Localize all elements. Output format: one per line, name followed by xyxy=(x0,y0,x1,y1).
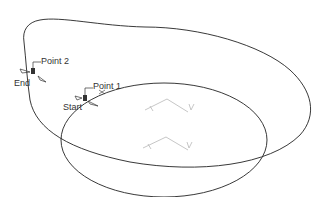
start-label: Start xyxy=(63,102,83,112)
lower-axis-triad xyxy=(143,137,192,150)
end-label: End xyxy=(14,78,30,88)
point2-label: Point 2 xyxy=(41,56,69,66)
upper-axis-triad xyxy=(145,99,194,112)
point1-label: Point 1 xyxy=(93,81,121,91)
cad-viewport: Point 2 End Point 1 Start xyxy=(0,0,320,197)
outer-boundary-curve xyxy=(24,19,311,167)
